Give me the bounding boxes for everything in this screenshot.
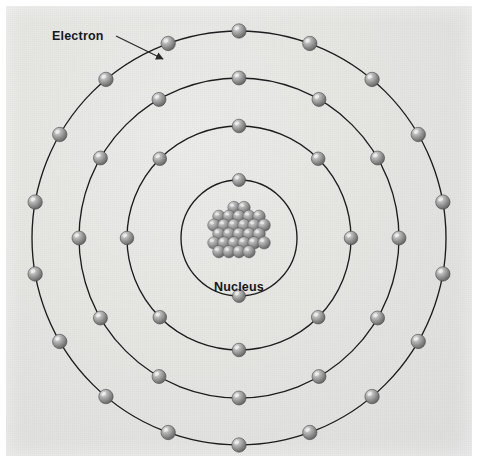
electron-shell4-18 (161, 36, 175, 50)
electron-shell4-16 (53, 127, 67, 141)
electron-shell3-10 (72, 231, 86, 245)
electron-shell2-4 (311, 310, 325, 324)
electron-label: Electron (52, 29, 104, 43)
nucleon-highlight (240, 222, 244, 225)
electron-shell4-10 (232, 438, 246, 452)
atom-diagram-svg (0, 0, 478, 462)
nucleon-highlight (240, 239, 244, 242)
electron-shell4-8 (365, 389, 379, 403)
nucleon-highlight (250, 239, 254, 242)
electron-shell3-4 (392, 231, 406, 245)
nucleon-highlight (255, 231, 259, 234)
figure-canvas: Electron Nucleus (0, 0, 478, 462)
electron-shell3-6 (312, 370, 326, 384)
nucleon-highlight (230, 239, 234, 242)
nucleon-highlight (210, 239, 214, 242)
nucleus-cluster (208, 201, 271, 258)
nucleon-highlight (230, 204, 234, 207)
electron-shell3-11 (93, 151, 107, 165)
nucleon-24 (258, 237, 270, 249)
nucleon-highlight (240, 204, 244, 207)
electron-shell2-3 (344, 231, 358, 245)
nucleon-highlight (235, 213, 239, 216)
nucleon-28 (243, 245, 255, 257)
nucleon-highlight (245, 213, 249, 216)
electron-shell3-5 (371, 311, 385, 325)
nucleon-highlight (215, 231, 219, 234)
nucleon-highlight (210, 222, 214, 225)
electron-shell2-2 (311, 152, 325, 166)
electron-shell3-8 (152, 370, 166, 384)
electron-shell3-1 (232, 71, 246, 85)
nucleon-highlight (230, 222, 234, 225)
electron-shell1-1 (233, 174, 246, 187)
electron-shell4-2 (303, 36, 317, 50)
nucleon-highlight (215, 213, 219, 216)
nucleon-highlight (225, 248, 229, 251)
electron-shell4-14 (28, 267, 42, 281)
nucleon-highlight (220, 239, 224, 242)
nucleon-highlight (235, 248, 239, 251)
electron-shell4-11 (161, 425, 175, 439)
electron-shell2-5 (232, 343, 246, 357)
electron-callout-leader (116, 36, 163, 59)
nucleon-highlight (245, 231, 249, 234)
electron-shell3-3 (371, 151, 385, 165)
nucleon-highlight (225, 231, 229, 234)
nucleon-highlight (260, 239, 264, 242)
nucleon-highlight (225, 213, 229, 216)
nucleus-label: Nucleus (214, 280, 264, 294)
nucleon-highlight (215, 248, 219, 251)
electron-shell4-15 (28, 195, 42, 209)
electron-shell2-8 (153, 152, 167, 166)
electron-shell4-12 (99, 389, 113, 403)
electron-shell3-2 (312, 92, 326, 106)
electron-shell3-12 (152, 92, 166, 106)
nucleon-highlight (255, 213, 259, 216)
electron-shell4-5 (436, 195, 450, 209)
electron-shell3-7 (232, 391, 246, 405)
nucleon-highlight (250, 222, 254, 225)
nucleon-highlight (235, 231, 239, 234)
nucleon-highlight (245, 248, 249, 251)
electron-shell2-6 (153, 310, 167, 324)
electron-shell4-4 (411, 127, 425, 141)
electron-shell4-6 (436, 267, 450, 281)
electron-shell4-17 (99, 72, 113, 86)
nucleon-highlight (260, 222, 264, 225)
electron-shell3-9 (93, 311, 107, 325)
electron-shell2-1 (232, 119, 246, 133)
electron-shell4-13 (53, 334, 67, 348)
electron-shell4-3 (365, 72, 379, 86)
electron-shell4-1 (232, 24, 246, 38)
electron-shell4-7 (411, 334, 425, 348)
electron-shell4-9 (303, 425, 317, 439)
electron-shell2-7 (120, 231, 134, 245)
nucleon-highlight (220, 222, 224, 225)
